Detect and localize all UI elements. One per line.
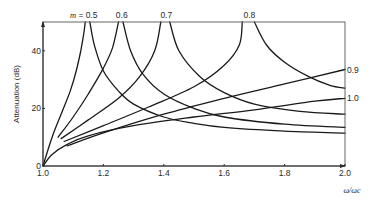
curve-m-08-rising (64, 22, 242, 142)
x-axis-label: ω/ωc (343, 186, 361, 195)
x-tick-label: 1.4 (158, 168, 170, 178)
x-tick-label: 1.6 (218, 168, 230, 178)
curve-m-08-falling (254, 22, 345, 88)
curve-label-group: m = 0.50.60.70.80.91.0 (70, 10, 359, 103)
curve-group (43, 22, 345, 166)
y-tick-label: 40 (32, 46, 42, 56)
y-tick-label: 0 (36, 161, 41, 171)
curve-m-06-falling (123, 22, 345, 127)
x-tick-label: 1.8 (279, 168, 291, 178)
curve-label-m-10: 1.0 (347, 93, 359, 103)
curve-label-m-06: 0.6 (116, 10, 128, 20)
curve-label-m-09: 0.9 (347, 65, 359, 75)
x-tick-label: 2.0 (339, 168, 351, 178)
curve-label-m-07: 0.7 (160, 10, 172, 20)
y-axis-label: Attenuation (dB) (12, 65, 21, 123)
y-tick-label: 20 (32, 103, 42, 113)
curve-m-05-rising (43, 22, 85, 166)
curve-m-05-falling (90, 22, 345, 133)
attenuation-chart: 1.01.21.41.61.82.002040 m = 0.50.60.70.8… (0, 0, 370, 207)
curve-label-m-05: m = 0.5 (70, 10, 98, 20)
curve-label-m-08: 0.8 (243, 10, 255, 20)
x-tick-label: 1.2 (97, 168, 109, 178)
curve-m-07-rising (61, 22, 161, 139)
